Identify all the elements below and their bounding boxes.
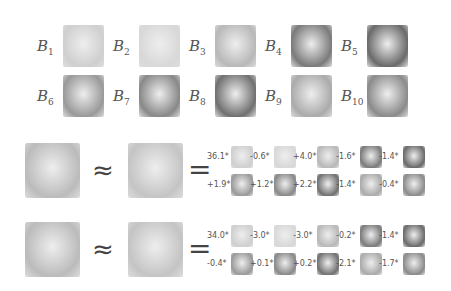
coefficient: -0.4* (207, 259, 227, 268)
basis-thumbnail (403, 146, 425, 168)
basis-face-image (215, 75, 256, 117)
coefficient: -1.6* (336, 152, 356, 161)
coefficient: -1.4* (379, 152, 399, 161)
coefficient: +0.2* (293, 259, 316, 268)
basis-label: B10 (341, 87, 363, 107)
coefficient: +1.2* (250, 180, 273, 189)
coefficient: +0.1* (250, 259, 273, 268)
coefficient: +4.0* (293, 152, 316, 161)
basis-label: B3 (189, 37, 206, 57)
basis-face-image (139, 25, 180, 67)
coefficient: +1.9* (207, 180, 230, 189)
basis-face-image (367, 75, 408, 117)
reconstructed-face-image (128, 143, 183, 198)
basis-face-image (291, 25, 332, 67)
basis-face-image (367, 25, 408, 67)
coefficient: -3.0* (250, 231, 270, 240)
basis-label: B1 (37, 37, 54, 57)
coefficient: 34.0* (207, 231, 229, 240)
basis-face-image (63, 25, 104, 67)
reconstructed-face-image (128, 222, 183, 277)
coefficient: -0.2* (336, 231, 356, 240)
basis-label: B4 (265, 37, 282, 57)
basis-face-image (291, 75, 332, 117)
approx-symbol: ≈ (92, 155, 114, 185)
approx-symbol: ≈ (92, 234, 114, 264)
basis-thumbnail (403, 225, 425, 247)
basis-label: B8 (189, 87, 206, 107)
original-face-image (25, 222, 80, 277)
coefficient: -2.1* (336, 259, 356, 268)
coefficient: -3.0* (293, 231, 313, 240)
coefficient: +2.2* (293, 180, 316, 189)
basis-thumbnail (403, 174, 425, 196)
coefficient: -1.7* (379, 259, 399, 268)
original-face-image (25, 143, 80, 198)
basis-face-image (139, 75, 180, 117)
basis-face-image (63, 75, 104, 117)
basis-label: B6 (37, 87, 54, 107)
coefficient: -0.4* (379, 180, 399, 189)
basis-label: B2 (113, 37, 130, 57)
basis-label: B5 (341, 37, 358, 57)
coefficient: -1.4* (336, 180, 356, 189)
coefficient: -0.6* (250, 152, 270, 161)
basis-thumbnail (403, 253, 425, 275)
basis-label: B9 (265, 87, 282, 107)
coefficient: 36.1* (207, 152, 229, 161)
coefficient: -1.4* (379, 231, 399, 240)
basis-label: B7 (113, 87, 130, 107)
basis-face-image (215, 25, 256, 67)
